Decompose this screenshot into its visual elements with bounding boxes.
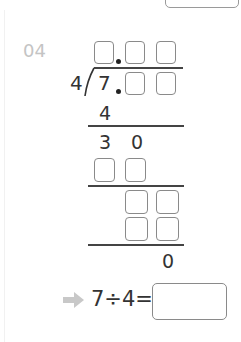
right-arrow-icon: [63, 291, 85, 309]
division-bracket-icon: [84, 67, 96, 97]
quotient-hundredths-box[interactable]: [156, 41, 176, 64]
dividend-decimal-point: [116, 89, 121, 94]
remainder-digit-2: 0: [131, 133, 143, 152]
division-bar: [94, 67, 183, 69]
equation-text: 7÷4=: [91, 289, 153, 310]
remainder-digit-1: 3: [99, 133, 111, 152]
subtraction-line-3: [88, 244, 184, 246]
remainder2-box-1[interactable]: [125, 190, 148, 214]
dividend-whole: 7: [98, 73, 111, 93]
dividend-tenths-box[interactable]: [125, 72, 145, 95]
third-product-box-2[interactable]: [156, 217, 179, 241]
dividend-hundredths-box[interactable]: [156, 72, 176, 95]
subtraction-line-1: [88, 125, 184, 127]
quotient-decimal-point: [116, 59, 121, 64]
answer-box[interactable]: [152, 283, 227, 320]
quotient-ones-box[interactable]: [94, 41, 114, 64]
subtraction-line-2: [88, 185, 184, 187]
first-product: 4: [99, 104, 111, 123]
remainder2-box-2[interactable]: [156, 190, 179, 214]
divisor: 4: [70, 73, 83, 93]
second-product-box-2[interactable]: [125, 158, 146, 182]
second-product-box-1[interactable]: [94, 158, 115, 182]
margin-rule: [4, 10, 5, 342]
final-remainder: 0: [162, 252, 174, 271]
previous-answer-box[interactable]: [165, 0, 239, 8]
problem-number: 04: [23, 40, 46, 61]
quotient-tenths-box[interactable]: [125, 41, 145, 64]
third-product-box-1[interactable]: [125, 217, 148, 241]
